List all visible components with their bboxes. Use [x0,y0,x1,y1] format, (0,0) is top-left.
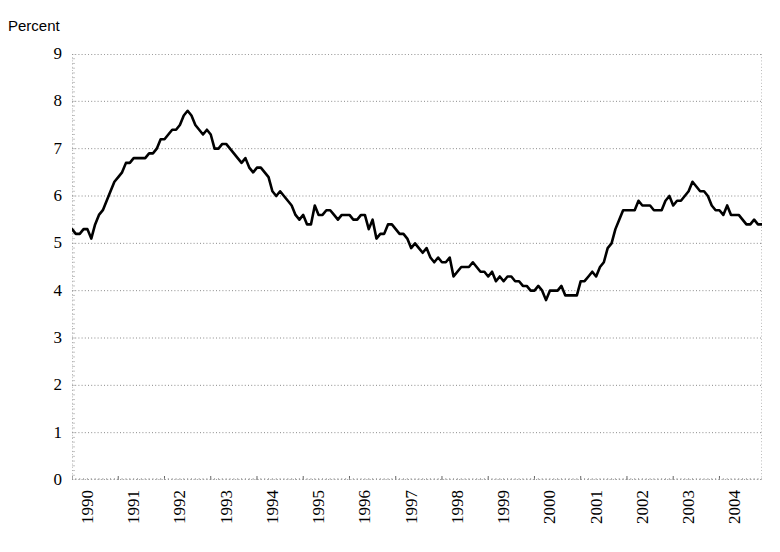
tick-marks-group [72,54,762,480]
x-tick-label: 2002 [634,490,651,524]
plot-area: 9876543210 [72,54,762,480]
plot-svg [72,54,762,480]
x-tick-label: 1994 [264,490,281,524]
x-tick-label: 2000 [541,490,558,524]
x-tick-label: 2004 [726,490,743,524]
x-tick-label: 1999 [495,490,512,524]
x-tick-label: 1996 [356,490,373,524]
x-tick-label: 1990 [79,490,96,524]
y-tick-label: 5 [42,234,62,251]
y-tick-label: 6 [42,187,62,204]
y-tick-label: 0 [42,471,62,488]
y-tick-label: 4 [42,282,62,299]
x-tick-label: 1998 [449,490,466,524]
y-tick-label: 3 [42,329,62,346]
y-tick-label: 2 [42,376,62,393]
gridlines-group [72,54,762,480]
x-tick-labels: 1990199119921993199419951996199719981999… [72,482,762,552]
x-tick-label: 1992 [171,490,188,524]
x-tick-label: 2003 [680,490,697,524]
data-series-line [72,111,762,300]
x-tick-label: 1993 [218,490,235,524]
x-tick-label: 1991 [125,490,142,524]
y-tick-label: 8 [42,92,62,109]
unemployment-rate-chart: Percent 9876543210 199019911992199319941… [0,0,780,552]
y-axis-title: Percent [8,18,60,33]
y-tick-label: 1 [42,424,62,441]
axis-frame [72,54,762,480]
x-tick-label: 1997 [403,490,420,524]
x-tick-label: 1995 [310,490,327,524]
y-tick-label: 9 [42,45,62,62]
y-tick-label: 7 [42,140,62,157]
x-tick-label: 2001 [588,490,605,524]
